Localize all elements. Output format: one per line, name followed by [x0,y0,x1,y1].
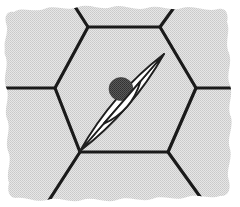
micrograph-figure [0,0,240,207]
tissue-patch [0,0,240,207]
figure-container: Dividing cell with spindle and nucleus i… [0,0,240,207]
